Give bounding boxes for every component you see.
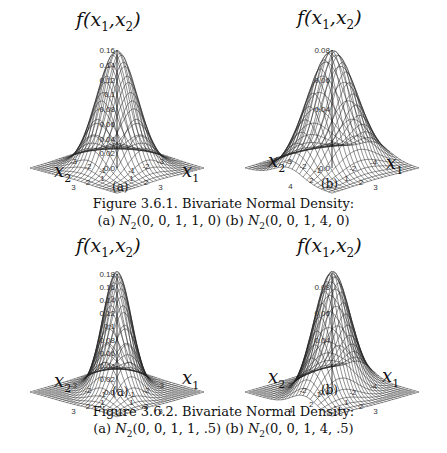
wireframe-line [296,66,383,171]
z-tick-label: 0.06 [99,120,115,129]
x1-tick-label: -2 [299,386,307,395]
x2-axis-label: x2 [54,370,71,395]
z-tick-label: 0.04 [314,105,330,114]
x1-tick-label: -2 [84,162,92,171]
z-tick-label: 0.08 [314,283,330,292]
x2-tick-label: -4 [370,158,378,167]
z-axis-title: f(x1,x2) [297,6,362,32]
x1-tick-label: 2 [359,178,364,187]
x1-axis-label: x1 [182,160,199,185]
z-tick-label: 0.06 [99,349,115,358]
caption-title: Figure 3.6.1. Bivariate Normal Density: [0,195,447,212]
z-tick-label: 0.16 [99,46,115,55]
x1-axis-label: x1 [382,365,399,390]
panel-label-b: (b) [321,177,338,191]
x1-tick-label: 1 [129,174,134,183]
x1-axis-label: x1 [182,367,199,392]
x2-tick-label: 3 [71,183,76,192]
x2-tick-label: -4 [370,382,378,391]
z-tick-label: 0.14 [99,61,115,70]
panel-label-b: (b) [321,383,338,397]
z-tick-label: 0.04 [314,336,330,345]
z-tick-label: 0.14 [99,296,115,305]
surface-plot: 0.00.040.060.08-3-2-1123-4-224 [227,252,437,427]
x1-tick-label: -2 [84,386,92,395]
z-tick-label: 0.02 [99,149,115,158]
wireframe-line [292,51,379,178]
z-tick-label: 0.06 [314,76,330,85]
x2-tick-label: -2 [349,164,357,173]
x2-tick-label: 2 [86,178,91,187]
x2-tick-label: -1 [128,166,136,175]
x1-tick-label: -1 [314,166,322,175]
x2-tick-label: -2 [142,386,150,395]
x2-axis-label: x2 [268,366,285,391]
x1-tick-label: 3 [373,183,378,192]
x1-tick-label: -3 [285,157,293,166]
z-tick-label: 0.12 [99,76,115,85]
z-tick-label: 0.08 [314,46,330,55]
x2-tick-label: -2 [142,162,150,171]
x2-tick-label: -3 [157,381,165,390]
z-tick-label: 0.08 [99,336,115,345]
z-tick-label: 0.04 [99,362,115,371]
z-tick-label: 0.02 [99,375,115,384]
x2-tick-label: 4 [288,182,293,191]
z-axis-title: f(x1,x2) [297,234,362,260]
x2-tick-label: -2 [349,388,357,397]
panel-label-a: (a) [112,180,129,194]
z-tick-label: 0.06 [314,309,330,318]
surface-plot: 0.00.020.040.060.080.10.120.140.160.18-3… [12,252,222,427]
z-tick-label: 0.04 [99,135,115,144]
x1-tick-label: 3 [158,183,163,192]
z-tick-label: 0.18 [99,270,115,279]
z-axis-title: f(x1,x2) [76,8,141,34]
x1-tick-label: 1 [344,174,349,183]
z-tick-label: 0.1 [104,322,116,331]
x2-tick-label: 1 [100,174,105,183]
caption-params: (a) N2(0, 0, 1, 1, 0) (b) N2(0, 0, 1, 4,… [0,212,447,235]
wireframe-line [77,53,164,178]
x2-axis-label: x2 [268,150,285,175]
z-tick-label: 0.12 [99,309,115,318]
x2-tick-label: 2 [309,176,314,185]
x1-tick-label: 2 [144,178,149,187]
x1-tick-label: -2 [299,162,307,171]
z-tick-label: 0.1 [104,90,116,99]
figure-caption: Figure 3.6.1. Bivariate Normal Density: … [0,195,447,235]
wireframe-line [70,53,157,178]
caption-params: (a) N2(0, 0, 1, 1, .5) (b) N2(0, 0, 1, 4… [0,420,447,443]
x2-tick-label: -1 [128,390,136,399]
x2-axis-label: x2 [54,160,71,185]
caption-title: Figure 3.6.2. Bivariate Normal Density: [0,403,447,420]
x2-tick-label: -3 [157,157,165,166]
plot-3-6-2-a: 0.00.020.040.060.080.10.120.140.160.18-3… [12,252,222,427]
panel-label-a: (a) [112,385,129,399]
z-tick-label: 0.16 [99,283,115,292]
x1-axis-label: x1 [386,152,403,177]
plot-3-6-2-b: 0.00.040.060.08-3-2-1123-4-224 [227,252,437,427]
z-tick-label: 0.08 [99,105,115,114]
z-axis-title: f(x1,x2) [76,234,141,260]
figure-caption: Figure 3.6.2. Bivariate Normal Density: … [0,403,447,443]
x1-tick-label: -3 [285,381,293,390]
wireframe-line [292,277,379,397]
